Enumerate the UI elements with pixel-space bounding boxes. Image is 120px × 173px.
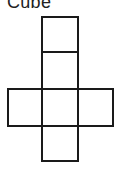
face-left (8, 89, 42, 126)
face-center (42, 89, 78, 126)
face-bottom (42, 126, 78, 161)
face-right (78, 89, 113, 126)
cube-net-diagram (0, 0, 120, 173)
face-top (42, 17, 78, 52)
face-upper-middle (42, 52, 78, 89)
